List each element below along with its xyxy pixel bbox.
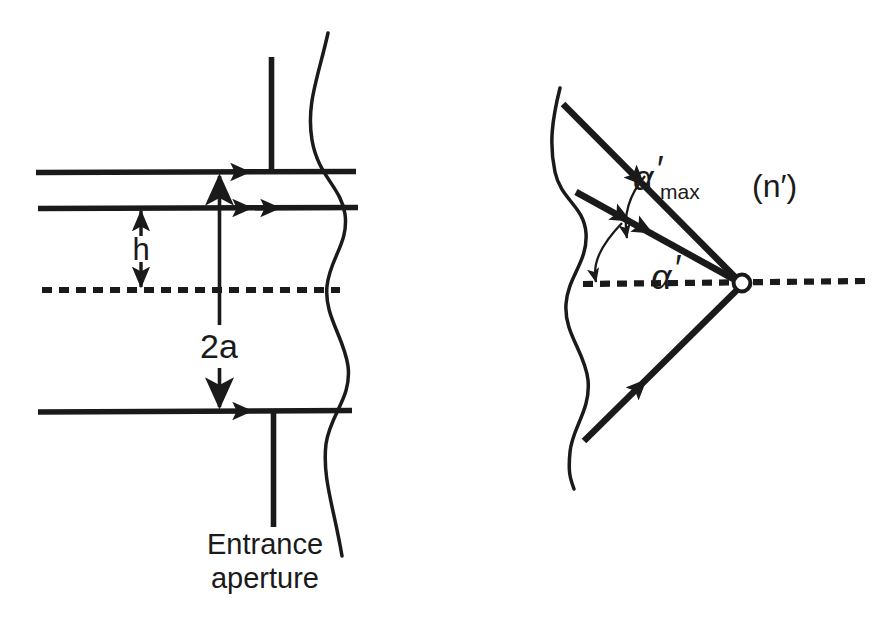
diagram-canvas: h 2a Entrance aperture α ′ max α ′ (n′)	[0, 0, 890, 619]
label-h: h	[132, 232, 149, 267]
object-space-group	[36, 33, 358, 556]
ray-chief	[38, 208, 358, 209]
label-alpha-prime: ′	[675, 248, 682, 289]
optical-axis-right-segment	[583, 281, 866, 284]
label-alpha-max: α ′ max	[633, 149, 700, 203]
label-aperture-size: 2a	[200, 327, 238, 365]
wavy-break-line-right	[552, 88, 588, 489]
optical-diagram-figure: h 2a Entrance aperture α ′ max α ′ (n′)	[0, 0, 890, 619]
label-alpha-max-symbol: α	[633, 157, 655, 198]
ray-upper-marginal	[36, 172, 356, 173]
label-alpha-max-subscript: max	[660, 180, 700, 203]
image-ray-lower-marginal-arrowhead	[622, 380, 646, 404]
label-entrance-aperture-line1: Entrance	[207, 528, 323, 560]
focal-point-marker	[734, 275, 751, 292]
label-refractive-index: (n′)	[752, 168, 797, 204]
label-entrance-aperture-line2: aperture	[211, 562, 319, 594]
label-alpha: α ′	[651, 248, 682, 297]
ray-lower-marginal	[38, 411, 352, 413]
wavy-break-line-left	[310, 33, 348, 556]
diagram-labels: h 2a Entrance aperture α ′ max α ′ (n′)	[132, 149, 797, 594]
label-alpha-symbol: α	[651, 256, 673, 297]
image-ray-lower-marginal	[584, 287, 740, 441]
angle-arc-alpha	[595, 223, 622, 282]
